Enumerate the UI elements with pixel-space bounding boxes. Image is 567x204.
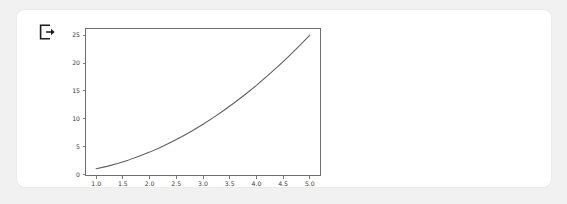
- x-tick-labels: 1.01.52.02.53.03.54.04.55.0: [91, 180, 315, 187]
- data-series-group: [96, 35, 310, 169]
- x-tick-label: 1.0: [91, 180, 101, 187]
- y-tick-label: 20: [72, 59, 80, 66]
- axes-frame: [86, 29, 321, 176]
- data-line: [96, 35, 310, 169]
- y-tick-labels: 0510152025: [72, 31, 80, 177]
- y-tick-label: 15: [72, 87, 80, 94]
- y-tick-label: 5: [76, 143, 80, 150]
- plot-canvas: 0510152025 1.01.52.02.53.03.54.04.55.0: [45, 15, 345, 191]
- x-tick-label: 4.5: [278, 180, 288, 187]
- notebook-output-card: 0510152025 1.01.52.02.53.03.54.04.55.0: [16, 9, 552, 188]
- x-tick-label: 4.0: [251, 180, 261, 187]
- x-tick-label: 3.0: [198, 180, 208, 187]
- x-tick-label: 3.5: [225, 180, 235, 187]
- y-tick-label: 10: [72, 115, 80, 122]
- x-tick-label: 1.5: [118, 180, 128, 187]
- y-tick-label: 0: [76, 171, 80, 178]
- y-tick-label: 25: [72, 31, 80, 38]
- x-tick-label: 5.0: [305, 180, 315, 187]
- x-tick-label: 2.5: [171, 180, 181, 187]
- x-tick-label: 2.0: [145, 180, 155, 187]
- matplotlib-figure: 0510152025 1.01.52.02.53.03.54.04.55.0: [45, 15, 345, 191]
- page-root: 0510152025 1.01.52.02.53.03.54.04.55.0: [0, 0, 567, 204]
